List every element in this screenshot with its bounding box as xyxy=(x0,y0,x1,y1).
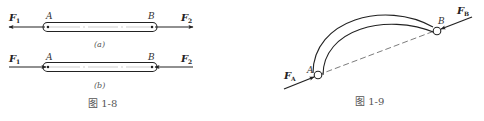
point-a-label: A xyxy=(306,65,314,75)
figure-1-8a: F1 A B F2 (a) xyxy=(8,11,193,49)
point-a-label-b: A xyxy=(45,52,53,62)
force-fa-label: FA xyxy=(283,70,296,82)
curved-bar-inner xyxy=(323,24,436,75)
force-f1-label-a: F1 xyxy=(8,12,20,24)
curved-bar-outer xyxy=(313,15,433,73)
figure-1-8-caption: 图 1-8 xyxy=(88,98,117,109)
caption-b: (b) xyxy=(94,81,105,90)
pin-a xyxy=(314,71,322,79)
figure-1-9-caption: 图 1-9 xyxy=(355,96,384,107)
caption-a: (a) xyxy=(94,40,105,49)
force-fb-arrow xyxy=(441,17,472,29)
pin-b-b xyxy=(151,66,154,69)
pin-a-b xyxy=(47,66,50,69)
point-a-label-a: A xyxy=(45,11,53,21)
pin-a-a xyxy=(47,26,50,29)
point-b-label: B xyxy=(437,16,445,26)
figure-1-8b: F1 A B F2 (b) xyxy=(8,52,193,90)
point-b-label-b: B xyxy=(147,52,155,62)
force-f2-label-a: F2 xyxy=(180,12,192,24)
force-f1-label-b: F1 xyxy=(8,53,20,65)
pin-b xyxy=(433,27,441,35)
diagram-canvas: F1 A B F2 (a) F1 A B F2 (b) 图 1-8 FA A xyxy=(0,0,484,121)
line-of-action-dashed xyxy=(318,30,437,75)
pin-b-a xyxy=(151,26,154,29)
point-b-label-a: B xyxy=(147,11,155,21)
force-f2-label-b: F2 xyxy=(180,53,192,65)
force-fb-label: FB xyxy=(456,5,469,17)
figure-1-9: FA A B FB xyxy=(283,5,472,89)
